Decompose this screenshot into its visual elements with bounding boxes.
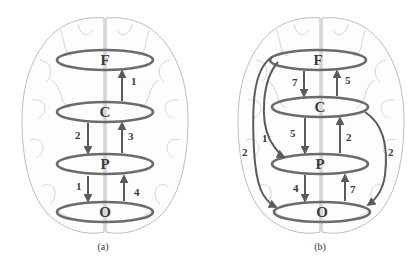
panel-a: F C P O 1 2 3 1 4 (a) bbox=[22, 18, 188, 253]
node-label-o-b: O bbox=[316, 204, 328, 220]
node-label-f-a: F bbox=[100, 52, 109, 68]
edge-weight-p-c-a: 3 bbox=[128, 130, 134, 142]
edge-weight-f-c-b: 7 bbox=[292, 76, 298, 88]
caption-b: (b) bbox=[314, 241, 326, 253]
node-label-c-a: C bbox=[100, 104, 111, 120]
node-label-p-b: P bbox=[315, 156, 324, 172]
edge-weight-c-f-b: 5 bbox=[345, 74, 351, 86]
panel-b: F C P O 7 5 5 2 4 7 1 2 2 (b) bbox=[238, 18, 404, 253]
figure: F C P O 1 2 3 1 4 (a) F C P bbox=[0, 0, 420, 265]
edge-weight-o-p-b: 7 bbox=[350, 183, 356, 195]
edge-weight-c-f-a: 1 bbox=[131, 75, 137, 87]
node-label-f-b: F bbox=[313, 52, 322, 68]
node-label-o-a: O bbox=[99, 204, 111, 220]
edge-weight-p-c-b: 2 bbox=[346, 131, 352, 143]
edge-weight-f-o-b: 2 bbox=[242, 146, 248, 158]
caption-a: (a) bbox=[97, 241, 108, 253]
edge-weight-c-o-b: 2 bbox=[388, 146, 394, 158]
edge-weight-c-p-b: 5 bbox=[290, 127, 296, 139]
edge-weight-f-p-b: 1 bbox=[262, 132, 268, 144]
edge-weight-o-p-a: 4 bbox=[134, 186, 140, 198]
edge-weight-p-o-b: 4 bbox=[293, 182, 299, 194]
edge-weight-p-o-a: 1 bbox=[76, 180, 82, 192]
node-label-c-b: C bbox=[315, 99, 326, 115]
edge-weight-c-p-a: 2 bbox=[75, 129, 81, 141]
node-label-p-a: P bbox=[100, 156, 109, 172]
